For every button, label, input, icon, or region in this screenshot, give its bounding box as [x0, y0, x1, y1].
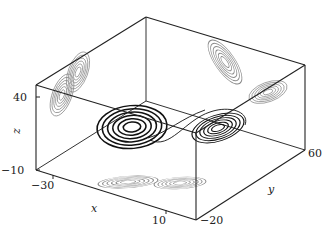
y-axis-label: y [267, 183, 275, 196]
projection-xz [45, 49, 94, 119]
z-axis-label: z [10, 128, 23, 135]
attractor-center [127, 124, 133, 130]
projection-xy [98, 174, 207, 191]
x-tick-min: −30 [31, 179, 54, 192]
lorenz-3d-plot: 40 −10 −30 10 60 −20 z x y [0, 0, 328, 233]
projection-yz [202, 35, 290, 108]
z-tick-min: −10 [1, 164, 24, 177]
x-axis-label: x [91, 202, 98, 215]
box-front-edges [36, 17, 305, 220]
z-tick-max: 40 [13, 91, 27, 104]
x-tick-max: 10 [152, 214, 166, 227]
y-tick-max: 60 [308, 147, 322, 160]
box-back-edges [36, 17, 305, 170]
y-tick-min: −20 [200, 214, 223, 227]
